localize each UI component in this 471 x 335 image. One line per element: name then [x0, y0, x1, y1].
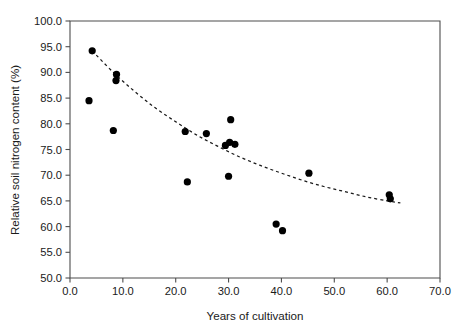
data-point: [203, 130, 210, 137]
y-tick-label: 100.0: [34, 15, 62, 27]
y-tick-label: 55.0: [40, 246, 62, 258]
y-tick-label: 65.0: [40, 195, 62, 207]
data-point: [182, 128, 189, 135]
data-point: [273, 220, 280, 227]
y-axis-title: Relative soil nitrogen content (%): [8, 65, 21, 235]
y-tick-label: 95.0: [40, 41, 62, 53]
y-tick-label: 75.0: [40, 144, 62, 156]
y-tick-label: 60.0: [40, 221, 62, 233]
y-tick-label: 80.0: [40, 118, 62, 130]
x-tick-label: 50.0: [323, 285, 345, 297]
x-tick-label: 30.0: [218, 285, 240, 297]
x-tick-label: 10.0: [112, 285, 134, 297]
x-tick-label: 0.0: [62, 285, 78, 297]
x-tick-label: 70.0: [429, 285, 451, 297]
y-axis-ticks: 50.055.060.065.070.075.080.085.090.095.0…: [34, 15, 70, 284]
chart-canvas: 50.055.060.065.070.075.080.085.090.095.0…: [0, 0, 471, 335]
y-tick-label: 50.0: [40, 272, 62, 284]
data-point: [110, 127, 117, 134]
plot-background: [70, 21, 440, 278]
scatter-chart-figure: 50.055.060.065.070.075.080.085.090.095.0…: [0, 0, 471, 335]
data-point: [113, 71, 120, 78]
data-point: [225, 173, 232, 180]
data-point: [387, 195, 394, 202]
x-axis-ticks: 0.010.020.030.040.050.060.070.0: [62, 278, 451, 297]
y-tick-label: 90.0: [40, 66, 62, 78]
x-tick-label: 40.0: [271, 285, 293, 297]
data-point: [231, 141, 238, 148]
x-tick-label: 60.0: [376, 285, 398, 297]
data-point: [85, 97, 92, 104]
data-point: [279, 227, 286, 234]
data-point: [305, 170, 312, 177]
data-point: [112, 77, 119, 84]
x-axis-title: Years of cultivation: [207, 309, 304, 322]
y-tick-label: 85.0: [40, 92, 62, 104]
data-point: [227, 116, 234, 123]
x-tick-label: 20.0: [165, 285, 187, 297]
y-tick-label: 70.0: [40, 169, 62, 181]
data-point: [89, 47, 96, 54]
data-point: [184, 178, 191, 185]
